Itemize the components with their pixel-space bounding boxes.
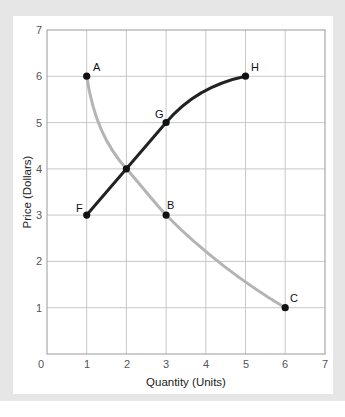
chart-svg: 7 6 5 4 3 2 1 0 1 2 3 4 5 6 7 Quantity (… [0,0,345,417]
demand-curve [87,76,286,308]
point-intersection [123,165,130,172]
x-tick-1: 1 [84,358,90,370]
point-h [242,73,249,80]
y-tick-5: 5 [36,117,42,129]
x-axis-ticks: 0 1 2 3 4 5 6 7 [38,358,328,370]
x-tick-3: 3 [163,358,169,370]
x-tick-5: 5 [243,358,249,370]
x-tick-0: 0 [38,358,44,370]
y-tick-7: 7 [36,24,42,36]
point-f [83,212,90,219]
label-c: C [290,292,298,304]
point-a [83,73,90,80]
point-g [163,119,170,126]
y-tick-2: 2 [36,255,42,267]
point-b [163,212,170,219]
x-tick-6: 6 [282,358,288,370]
label-g: G [155,108,164,120]
y-tick-4: 4 [36,163,42,175]
data-points [83,73,289,312]
label-h: H [251,61,259,73]
point-c [282,304,289,311]
x-tick-2: 2 [124,358,130,370]
y-tick-6: 6 [36,70,42,82]
x-axis-label: Quantity (Units) [146,376,226,388]
y-tick-3: 3 [36,209,42,221]
y-axis-label: Price (Dollars) [21,155,33,228]
label-a: A [93,61,101,73]
x-tick-7: 7 [322,358,328,370]
x-tick-4: 4 [203,358,209,370]
y-tick-1: 1 [36,302,42,314]
point-labels: A B C F G H [76,61,298,304]
y-axis-ticks: 7 6 5 4 3 2 1 [36,24,42,314]
label-b: B [167,199,174,211]
label-f: F [76,202,83,214]
